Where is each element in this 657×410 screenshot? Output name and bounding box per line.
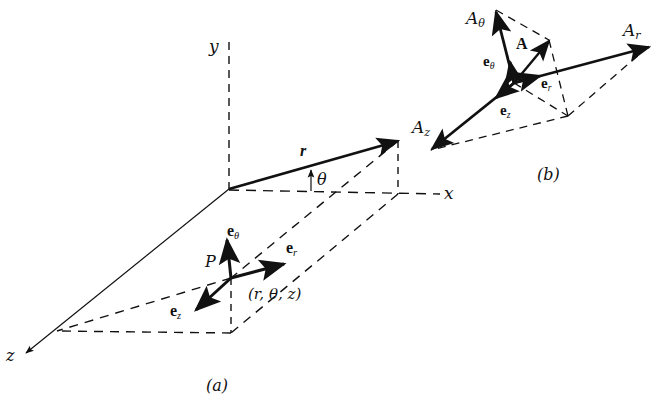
base-to-z-line — [57, 331, 231, 333]
panel-b — [431, 10, 649, 150]
a-theta-label: Aθ — [466, 10, 485, 29]
caption-b: (b) — [537, 167, 560, 183]
e-z-label: ez — [170, 303, 181, 322]
z-axis — [26, 189, 229, 353]
z-axis-label: z — [6, 348, 14, 364]
panel-a — [26, 42, 440, 353]
b-e-r-label: er — [541, 76, 551, 93]
point-coords-label: (r, θ, z) — [248, 287, 301, 302]
r-vector-label: r — [300, 143, 306, 159]
b-e-theta-vector — [510, 62, 514, 83]
b-e-z-label: ez — [500, 103, 510, 120]
theta-angle-label: θ — [317, 172, 327, 188]
x-to-base-line — [231, 194, 398, 333]
point-p-label: P — [205, 254, 216, 270]
e-r-label: er — [286, 240, 297, 259]
r-vector — [229, 141, 398, 189]
e-theta-label: eθ — [227, 223, 239, 242]
diagram-canvas — [0, 0, 657, 410]
b-e-z-vector — [496, 83, 514, 98]
a-z-label: Az — [412, 119, 430, 138]
y-axis-label: y — [209, 38, 219, 55]
a-vector-label: A — [516, 36, 528, 52]
a-r-label: Ar — [623, 22, 641, 41]
p-to-z-line — [57, 278, 231, 331]
e-theta-vector — [227, 240, 231, 278]
b-e-theta-label: eθ — [483, 54, 494, 71]
e-r-vector — [231, 264, 284, 278]
caption-a: (a) — [206, 378, 228, 394]
r-to-p-line — [231, 141, 398, 278]
x-axis-label: x — [444, 185, 454, 202]
cylindrical-coordinates-figure: y x z r θ P (r, θ, z) eθ er ez (a) Aθ A … — [0, 0, 657, 410]
